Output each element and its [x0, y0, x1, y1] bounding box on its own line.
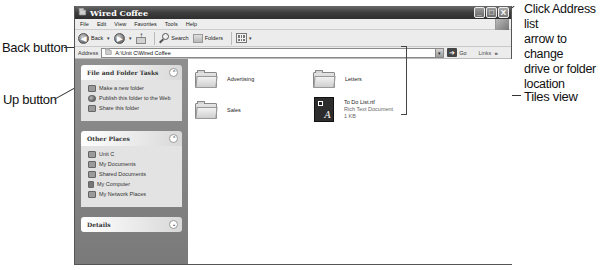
title-bar[interactable]: Wired Coffee _ □ X — [75, 6, 511, 19]
shared-folder-icon — [88, 171, 96, 178]
place-label: Unit C — [99, 151, 114, 158]
callout-address-list: Click Address list arrow to change drive… — [524, 2, 604, 92]
callout-address-line-3: drive or folder — [524, 62, 604, 77]
tile-name: Advertising — [227, 76, 254, 83]
task-publish-folder[interactable]: Publish this folder to the Web — [88, 95, 177, 102]
place-label: My Computer — [97, 181, 130, 188]
tiles-view-bracket — [401, 46, 407, 115]
address-bar: Address A:\Unit C\Wired Coffee ▾ ➔ Go Li… — [75, 47, 511, 59]
panel-file-folder-tasks: File and Folder Tasks ⌃ Make a new folde… — [81, 65, 182, 121]
tile-name: Sales — [227, 107, 241, 114]
new-folder-icon — [88, 85, 96, 92]
place-shared-documents[interactable]: Shared Documents — [88, 171, 177, 178]
panel-title: Details — [87, 221, 111, 228]
menu-file[interactable]: File — [80, 21, 89, 27]
callout-back-button: Back button — [2, 40, 67, 55]
tile-size: 1 KB — [344, 113, 393, 120]
back-history-dropdown[interactable]: ▾ — [107, 35, 110, 41]
expand-icon[interactable]: ⌄ — [169, 220, 178, 229]
forward-arrow-icon: ▶ — [114, 33, 125, 44]
back-button[interactable]: ◀ Back — [78, 33, 103, 44]
folder-icon — [79, 10, 86, 16]
place-label: Shared Documents — [99, 171, 146, 178]
task-label: Share this folder — [99, 105, 139, 112]
tile-sales[interactable]: Sales — [195, 101, 241, 119]
network-icon — [88, 191, 96, 198]
address-value: A:\Unit C\Wired Coffee — [115, 50, 171, 56]
back-label: Back — [91, 35, 103, 41]
views-dropdown-arrow: ▾ — [249, 35, 252, 41]
task-label: Publish this folder to the Web — [99, 95, 170, 102]
search-label: Search — [171, 35, 188, 41]
tile-letters[interactable]: Letters — [313, 70, 362, 88]
go-button[interactable]: ➔ Go — [447, 48, 466, 57]
links-chevron-icon[interactable]: » — [494, 50, 497, 56]
tile-name: Letters — [345, 76, 362, 83]
share-folder-icon — [88, 105, 96, 112]
panel-header[interactable]: Other Places ⌃ — [81, 131, 182, 146]
search-button[interactable]: Search — [159, 33, 188, 43]
panel-body: Make a new folder Publish this folder to… — [81, 80, 182, 121]
standard-toolbar: ◀ Back ▾ ▶ ▾ ↑ Search Folders ▾ — [75, 30, 511, 47]
task-label: Make a new folder — [99, 85, 144, 92]
tile-advertising[interactable]: Advertising — [195, 70, 254, 88]
folder-icon — [88, 151, 96, 158]
panel-body: Unit C My Documents Shared Documents My … — [81, 146, 182, 207]
folders-label: Folders — [205, 35, 223, 41]
address-field[interactable]: A:\Unit C\Wired Coffee ▾ — [101, 48, 444, 58]
close-button[interactable]: X — [498, 7, 509, 18]
views-icon — [236, 33, 247, 43]
back-arrow-icon: ◀ — [78, 33, 89, 44]
address-list-arrow[interactable]: ▾ — [435, 49, 443, 57]
folder-icon — [195, 101, 217, 119]
panel-header[interactable]: File and Folder Tasks ⌃ — [81, 65, 182, 80]
forward-history-dropdown[interactable]: ▾ — [129, 35, 132, 41]
place-unit-c[interactable]: Unit C — [88, 151, 177, 158]
place-label: My Network Places — [99, 191, 146, 198]
globe-icon — [88, 95, 96, 102]
address-label: Address — [78, 50, 98, 56]
menu-edit[interactable]: Edit — [97, 21, 106, 27]
tile-details: To Do List.rtf Rich Text Document 1 KB — [344, 99, 393, 120]
folders-button[interactable]: Folders — [193, 34, 223, 43]
task-share-folder[interactable]: Share this folder — [88, 105, 177, 112]
file-list-tiles-view: Advertising Letters Sales A To Do List.r… — [188, 59, 512, 264]
links-button[interactable]: Links — [479, 50, 492, 56]
views-button[interactable]: ▾ — [236, 33, 252, 43]
collapse-icon[interactable]: ⌃ — [169, 68, 178, 77]
menu-bar: File Edit View Favorites Tools Help — [75, 19, 511, 30]
callout-address-line-1: Click Address list — [524, 2, 604, 32]
folders-icon — [193, 34, 203, 43]
window-controls: _ □ X — [474, 7, 509, 18]
toolbar-separator — [231, 32, 232, 45]
place-my-computer[interactable]: My Computer — [88, 181, 177, 188]
task-make-new-folder[interactable]: Make a new folder — [88, 85, 177, 92]
task-pane: File and Folder Tasks ⌃ Make a new folde… — [75, 59, 188, 264]
maximize-button[interactable]: □ — [486, 7, 497, 18]
place-my-documents[interactable]: My Documents — [88, 161, 177, 168]
toolbar-separator — [154, 32, 155, 45]
menu-view[interactable]: View — [114, 21, 126, 27]
callout-tiles-view: Tiles view — [524, 89, 578, 104]
up-folder-icon: ↑ — [136, 33, 146, 44]
windows-logo-icon — [495, 19, 509, 30]
panel-title: Other Places — [87, 135, 130, 142]
folder-icon — [313, 70, 335, 88]
folder-icon — [195, 70, 217, 88]
place-label: My Documents — [99, 161, 136, 168]
panel-title: File and Folder Tasks — [87, 69, 158, 76]
place-my-network-places[interactable]: My Network Places — [88, 191, 177, 198]
up-button[interactable]: ↑ — [136, 33, 146, 44]
minimize-button[interactable]: _ — [474, 7, 485, 18]
collapse-icon[interactable]: ⌃ — [169, 134, 178, 143]
menu-favorites[interactable]: Favorites — [134, 21, 157, 27]
go-arrow-icon: ➔ — [447, 48, 457, 57]
panel-header[interactable]: Details ⌄ — [81, 217, 182, 232]
tile-to-do-list[interactable]: A To Do List.rtf Rich Text Document 1 KB — [314, 97, 393, 122]
go-label: Go — [459, 50, 466, 56]
window-title: Wired Coffee — [90, 8, 148, 18]
forward-button[interactable]: ▶ — [114, 33, 125, 44]
tile-type: Rich Text Document — [344, 106, 393, 113]
menu-tools[interactable]: Tools — [165, 21, 178, 27]
menu-help[interactable]: Help — [186, 21, 197, 27]
